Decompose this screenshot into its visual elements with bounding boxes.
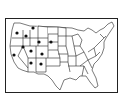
marker-new-mexico	[39, 62, 42, 65]
marker-california	[12, 53, 15, 56]
marker-colorado	[40, 52, 43, 55]
marker-wyoming	[37, 40, 40, 43]
marker-south-dakota	[49, 40, 52, 43]
marker-idaho	[24, 34, 27, 37]
marker-montana	[31, 26, 34, 29]
us-map	[0, 0, 121, 106]
marker-arizona	[29, 61, 32, 64]
marker-washington	[15, 31, 18, 34]
marker-oregon	[21, 45, 24, 48]
marker-nevada	[29, 49, 32, 52]
